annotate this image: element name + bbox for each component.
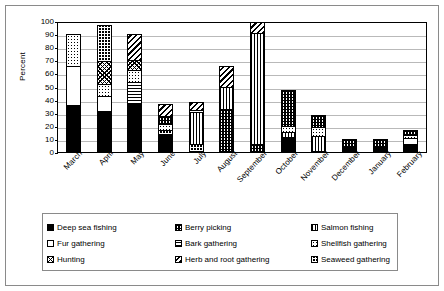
bar-segment[interactable] [190,113,203,144]
legend-item[interactable]: Seaweed gathering [311,255,397,264]
y-tick-label: 80 [45,44,54,52]
fine-checker-swatch [175,224,182,231]
legend-item[interactable]: Fur gathering [47,239,175,248]
bar-segment[interactable] [128,83,141,105]
bar-segment[interactable] [128,35,141,61]
bar-segment[interactable] [282,91,295,126]
bar-segment[interactable] [128,61,141,71]
y-tick-label: 90 [45,31,54,39]
y-axis-title: Percent [18,37,27,97]
y-axis: 1009080706050403020100 [24,22,54,153]
bar-slot [150,23,181,152]
x-tick-slot: July [180,155,211,205]
y-tick-label: 60 [45,70,54,78]
bar-segment[interactable] [220,110,233,151]
x-tick-slot: January [365,155,396,205]
x-tick-slot: February [396,155,427,205]
y-tick-label: 0 [50,149,54,157]
bar-slot [211,23,242,152]
bar-segment[interactable] [190,103,203,111]
vertical-lines-swatch [311,224,318,231]
bar-segment[interactable] [128,105,141,151]
diagonal-lines-swatch [175,256,182,263]
bar-slot [395,23,426,152]
bar-segment[interactable] [67,106,80,151]
legend-label: Hunting [57,255,85,264]
bar-segment[interactable] [374,140,387,148]
bar-segment[interactable] [67,67,80,106]
bar-segment[interactable] [67,35,80,67]
legend-item[interactable]: Bark gathering [175,239,311,248]
bar[interactable] [250,22,265,152]
x-tick-slot: September [242,155,273,205]
y-tick-label: 100 [41,18,54,26]
bar[interactable] [219,66,234,152]
bar-segment[interactable] [159,117,172,125]
bar-segment[interactable] [128,71,141,83]
y-tick-label: 40 [45,97,54,105]
solid-white-swatch [47,240,54,247]
bar-segment[interactable] [251,23,264,33]
x-tick-slot: December [334,155,365,205]
bar-segment[interactable] [98,62,111,85]
bar-segment[interactable] [251,34,264,145]
y-tick-label: 50 [45,84,54,92]
legend-label: Herb and root gathering [185,255,270,264]
bar-segment[interactable] [343,140,356,148]
cross-hatch-swatch [47,256,54,263]
bar-segment[interactable] [98,97,111,112]
bar-segment[interactable] [220,88,233,110]
bar[interactable] [189,102,204,152]
bar-slot [181,23,212,152]
bar-slot [303,23,334,152]
bar[interactable] [311,115,326,152]
legend-item[interactable]: Herb and root gathering [175,255,311,264]
legend-item[interactable]: Hunting [47,255,175,264]
x-tick-slot: March [57,155,88,205]
bar[interactable] [127,34,142,152]
dots-swatch [311,240,318,247]
legend-item[interactable]: Deep sea fishing [47,223,175,232]
legend-label: Shellfish gathering [321,239,387,248]
x-tick-slot: November [304,155,335,205]
bar-segment[interactable] [220,67,233,89]
legend-item[interactable]: Berry picking [175,223,311,232]
bar-segment[interactable] [312,128,325,138]
x-tick-slot: June [149,155,180,205]
y-tick-mark [55,153,58,154]
bar[interactable] [97,25,112,152]
bar-segment[interactable] [98,26,111,62]
bar-segment[interactable] [98,85,111,97]
bar[interactable] [281,90,296,152]
horizontal-lines-swatch [175,240,182,247]
bar-slot [58,23,89,152]
bar-slot [89,23,120,152]
solid-black-swatch [47,224,54,231]
x-tick-slot: October [273,155,304,205]
y-tick-label: 30 [45,110,54,118]
bar-segment[interactable] [312,116,325,127]
legend-label: Fur gathering [57,239,105,248]
y-tick-label: 20 [45,123,54,131]
bar[interactable] [66,34,81,152]
y-tick-label: 70 [45,57,54,65]
legend-label: Deep sea fishing [57,223,117,232]
legend-label: Salmon fishing [321,223,373,232]
legend-item[interactable]: Shellfish gathering [311,239,397,248]
legend-label: Seaweed gathering [321,255,390,264]
x-axis-labels: MarchAprilMayJuneJulyAugustSeptemberOcto… [57,155,427,205]
bold-cross-swatch [311,256,318,263]
y-tick-label: 10 [45,136,54,144]
bar-slot [119,23,150,152]
x-tick-slot: April [88,155,119,205]
legend-grid: Deep sea fishingBerry pickingSalmon fish… [47,219,397,267]
legend-label: Berry picking [185,223,231,232]
legend-item[interactable]: Salmon fishing [311,223,397,232]
chart-figure: 1009080706050403020100 Percent MarchApri… [0,0,444,291]
bar-segment[interactable] [98,112,111,151]
legend-label: Bark gathering [185,239,237,248]
legend: Deep sea fishingBerry pickingSalmon fish… [42,213,398,271]
x-tick-slot: May [119,155,150,205]
bar-segment[interactable] [159,105,172,118]
bar[interactable] [158,104,173,152]
